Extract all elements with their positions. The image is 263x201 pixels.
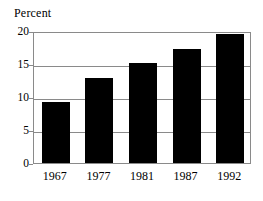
bar xyxy=(173,49,201,163)
chart-title: Percent xyxy=(14,6,51,21)
x-tick-label: 1987 xyxy=(164,170,208,182)
y-tick-mark xyxy=(29,164,33,165)
y-axis: 05101520 xyxy=(0,32,29,164)
y-tick-label: 10 xyxy=(18,92,30,104)
bar xyxy=(129,63,157,163)
bars-group xyxy=(34,33,250,163)
bar xyxy=(42,102,70,163)
x-tick-label: 1977 xyxy=(77,170,121,182)
bar-chart: Percent 05101520 19671977198119871992 xyxy=(0,0,263,201)
bar xyxy=(216,34,244,163)
plot-area xyxy=(33,32,251,164)
y-tick-label: 20 xyxy=(18,26,30,38)
x-axis: 19671977198119871992 xyxy=(33,170,251,190)
x-tick-label: 1967 xyxy=(33,170,77,182)
bar xyxy=(85,78,113,163)
y-tick-label: 15 xyxy=(18,59,30,71)
x-tick-label: 1981 xyxy=(120,170,164,182)
x-tick-label: 1992 xyxy=(207,170,251,182)
